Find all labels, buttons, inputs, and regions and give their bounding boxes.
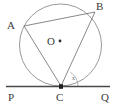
tangent-label-p: P: [8, 92, 14, 103]
angle-label-x: x: [72, 75, 75, 81]
point-c-marker: [59, 84, 63, 89]
circle-outline: [20, 4, 102, 86]
vertex-label-b: B: [96, 1, 103, 12]
chord-ab: [24, 12, 95, 26]
chord-bc: [61, 12, 95, 86]
center-point-dot: [59, 40, 62, 43]
geometry-diagram: A B O P C Q x: [0, 0, 115, 110]
chord-ac: [24, 26, 61, 86]
tangent-label-q: Q: [101, 92, 109, 103]
vertex-label-a: A: [7, 20, 15, 31]
vertex-label-c: C: [56, 92, 63, 103]
center-label-o: O: [47, 36, 55, 47]
